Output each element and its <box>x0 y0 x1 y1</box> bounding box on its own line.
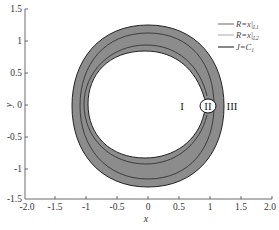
x-tick-label: 0.5 <box>173 202 185 212</box>
x-tick-label: -1.5 <box>47 202 62 212</box>
y-axis-label: y <box>3 102 14 108</box>
y-ticks <box>25 9 28 169</box>
y-tick-label: -0.5 <box>7 132 22 142</box>
y-tick-label: 0.5 <box>10 68 22 78</box>
legend-label-j-c1: J=C1 <box>236 42 254 53</box>
y-tick-label: 0 <box>17 100 22 110</box>
x-tick-label: -1 <box>82 202 90 212</box>
legend-label-r-l2: R=x|L2 <box>235 30 259 41</box>
y-tick-label: -1 <box>14 164 22 174</box>
region-label-i: I <box>180 100 184 112</box>
x-tick-label: -0.5 <box>109 202 124 212</box>
x-tick-label: -2.0 <box>19 202 34 212</box>
legend: R=x|L1 R=x|L2 J=C1 <box>218 19 259 53</box>
x-tick-label: 2.0 <box>264 202 276 212</box>
x-ticks <box>55 196 272 199</box>
legend-label-r-l1: R=x|L1 <box>235 19 259 30</box>
x-axis-label: x <box>143 213 149 224</box>
y-tick-label: 1.5 <box>10 4 22 14</box>
x-tick-label: 1 <box>208 202 213 212</box>
region-label-ii: II <box>204 100 212 112</box>
region-label-iii: III <box>227 100 238 112</box>
x-tick-label: 0 <box>146 202 151 212</box>
y-tick-label: 1 <box>17 36 22 46</box>
chart-canvas: 1.5 1 0.5 0 -0.5 -1 -1.5 -2.0 -1.5 -1 -0… <box>0 0 279 230</box>
x-tick-label: 1.5 <box>235 202 247 212</box>
